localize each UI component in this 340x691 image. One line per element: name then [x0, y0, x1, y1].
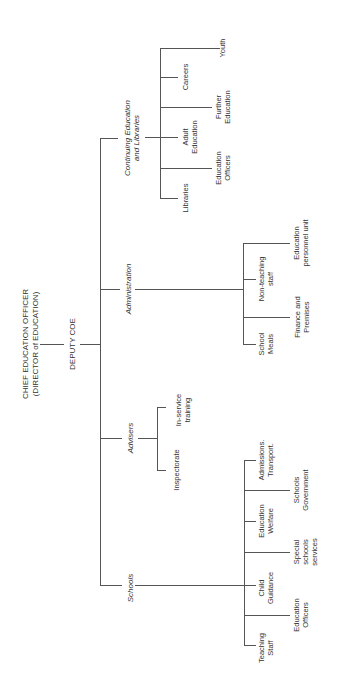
careers-node: Careers: [181, 64, 190, 91]
further-education-node: Further Education: [214, 90, 232, 123]
connector: [244, 460, 256, 461]
schools-bus: [244, 460, 245, 646]
special-schools-services-node: Special schools services: [292, 538, 319, 566]
education-welfare-node: Education Welfare: [257, 504, 275, 537]
school-meals-node: School Meals: [257, 333, 275, 356]
connector: [244, 615, 290, 616]
libraries-node: Libraries: [181, 184, 190, 213]
connector: [160, 107, 212, 108]
connector: [135, 585, 244, 586]
connector: [157, 470, 166, 471]
connector: [100, 138, 118, 139]
education-officers-ce-node: Education Officers: [214, 151, 232, 184]
child-guidance-node: Child Guidance: [257, 572, 275, 604]
inspectorate-node: Inspectorate: [172, 449, 181, 490]
youth-node: Youth: [218, 39, 227, 58]
connector: [244, 645, 256, 646]
education-officers-schools-node: Education Officers: [292, 598, 310, 631]
administration-bus: [243, 243, 244, 345]
non-teaching-staff-node: Non-teaching staff: [257, 257, 275, 302]
in-service-training-node: In-service training: [174, 394, 192, 427]
continuing-education-node: Continuing Education and Libraries: [123, 100, 141, 176]
connector: [135, 289, 243, 290]
connector: [145, 137, 160, 138]
advisers-node: Advisers: [126, 423, 135, 454]
connector: [243, 317, 290, 318]
connector: [100, 585, 122, 586]
main-trunk: [100, 138, 101, 586]
connector: [160, 198, 178, 199]
connector: [244, 490, 290, 491]
finance-premises-node: Finance and Premises: [293, 296, 311, 337]
connector: [244, 521, 256, 522]
deputy-coe-node: DEPUTY COE: [68, 318, 78, 370]
connector: [138, 438, 157, 439]
admissions-transport-node: Admissions. Transport.: [257, 440, 275, 480]
advisers-bus: [157, 407, 158, 471]
connector: [243, 344, 256, 345]
connector: [244, 585, 256, 586]
connector: [160, 48, 220, 49]
schools-node: Schools: [126, 574, 135, 602]
connector: [40, 344, 64, 345]
continuing-bus: [160, 48, 161, 199]
connector: [160, 168, 212, 169]
schools-government-node: Schools Government: [292, 469, 310, 510]
connector: [157, 407, 166, 408]
administration-node: Administration: [124, 264, 133, 315]
connector: [243, 243, 290, 244]
connector: [160, 77, 178, 78]
ceo-node: CHIEF EDUCATION OFFICER (DIRECTOR of EDU…: [21, 289, 40, 399]
connector: [100, 438, 122, 439]
connector: [244, 552, 290, 553]
education-personnel-unit-node: Education personnel unit: [292, 219, 310, 266]
connector: [80, 344, 100, 345]
adult-education-node: Adult Education: [181, 120, 199, 153]
teaching-staff-node: Teaching Staff: [257, 633, 275, 663]
connector: [100, 289, 120, 290]
connector: [243, 279, 256, 280]
connector: [160, 137, 178, 138]
